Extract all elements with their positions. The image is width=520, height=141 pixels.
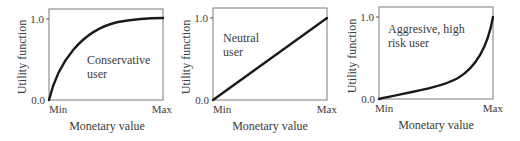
x-tick-label-max: Max xyxy=(152,103,173,115)
panel-conservative: Utility function 1.0 0.0 Min Max Monetar… xyxy=(15,9,172,133)
x-tick-label-max: Max xyxy=(483,102,504,114)
y-tick-label-max: 1.0 xyxy=(30,13,44,25)
curve-annotation-line1: Aggresive, high xyxy=(388,22,465,36)
x-tick-label-min: Min xyxy=(213,103,232,115)
y-tick-label-max: 1.0 xyxy=(194,12,208,24)
y-tick-label-min: 0.0 xyxy=(195,94,209,106)
y-axis-label: Utility function xyxy=(15,20,29,94)
x-tick-label-min: Min xyxy=(49,103,68,115)
x-tick-label-max: Max xyxy=(317,103,338,115)
x-tick-label-min: Min xyxy=(375,102,394,114)
utility-function-figure: Utility function 1.0 0.0 Min Max Monetar… xyxy=(0,0,520,141)
curve-annotation-line2: risk user xyxy=(388,36,429,50)
curve-annotation-line2: user xyxy=(87,67,107,81)
y-tick-label-min: 0.0 xyxy=(361,93,375,105)
panel-neutral: Utility function 1.0 0.0 Min Max Monetar… xyxy=(179,8,337,133)
panel-aggressive: Utility function 1.0 0.0 Min Max Monetar… xyxy=(345,7,503,132)
curve-annotation-line1: Conservative xyxy=(87,53,150,67)
curve-annotation-line1: Neutral xyxy=(223,31,260,45)
y-tick-label-min: 0.0 xyxy=(31,94,45,106)
y-axis-label: Utility function xyxy=(345,19,359,93)
y-tick-label-max: 1.0 xyxy=(360,11,374,23)
x-axis-label: Monetary value xyxy=(398,118,474,132)
curve-annotation-line2: user xyxy=(223,45,243,59)
x-axis-label: Monetary value xyxy=(69,119,145,133)
x-axis-label: Monetary value xyxy=(232,119,308,133)
y-axis-label: Utility function xyxy=(179,20,193,94)
